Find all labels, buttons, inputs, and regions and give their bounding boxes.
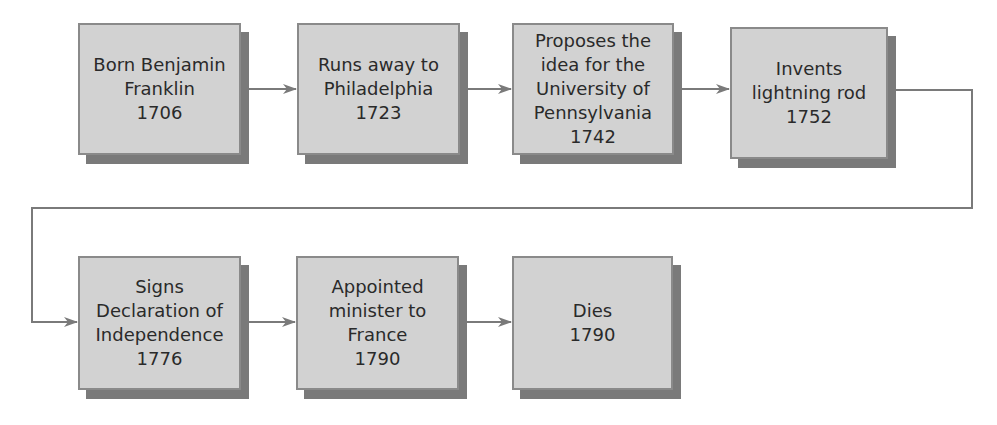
event-label: Invents lightning rod 1752: [752, 57, 866, 129]
event-label: Born Benjamin Franklin 1706: [93, 53, 225, 125]
event-label: Dies 1790: [570, 299, 616, 347]
event-minister-france: Appointed minister to France 1790: [296, 256, 459, 390]
event-lightning-rod: Invents lightning rod 1752: [730, 27, 888, 159]
event-label: Proposes the idea for the University of …: [534, 29, 652, 149]
event-label: Runs away to Philadelphia 1723: [318, 53, 439, 125]
event-label: Appointed minister to France 1790: [329, 275, 427, 371]
event-born: Born Benjamin Franklin 1706: [78, 23, 241, 155]
event-university-proposal: Proposes the idea for the University of …: [512, 23, 674, 155]
event-label: Signs Declaration of Independence 1776: [95, 275, 223, 371]
event-dies: Dies 1790: [512, 256, 673, 390]
event-declaration: Signs Declaration of Independence 1776: [78, 256, 241, 390]
event-runs-away: Runs away to Philadelphia 1723: [297, 23, 460, 155]
